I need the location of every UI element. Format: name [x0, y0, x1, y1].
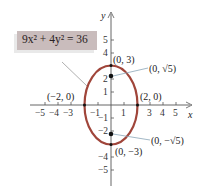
vertex-right-point: [136, 104, 139, 107]
equation-leader-line: [62, 62, 87, 86]
x-tick-label: 1: [121, 108, 126, 118]
vertex-bottom-point: [110, 143, 113, 146]
y-tick-label: −2: [98, 126, 108, 136]
point-label-right: (2, 0): [140, 91, 162, 103]
x-tick-label: −4: [49, 108, 59, 118]
y-tick-label: −4: [98, 152, 108, 162]
focus-top-point: [109, 74, 114, 79]
point-label-focus-bottom: (0, −√5): [151, 135, 184, 147]
x-tick-label: 4: [160, 108, 165, 118]
x-tick-label: 3: [147, 108, 152, 118]
y-axis-label: y: [100, 10, 106, 21]
y-tick-label: 1: [103, 87, 108, 97]
vertex-left-point: [83, 104, 86, 107]
y-tick-label: 4: [103, 48, 108, 58]
focus-top-leader: [113, 68, 148, 76]
x-tick-label: −3: [63, 108, 73, 118]
x-axis-label: x: [187, 109, 193, 120]
focus-bottom-point: [109, 132, 114, 137]
equation-label: 9x² + 4y² = 36: [22, 33, 88, 45]
x-tick-label: −5: [35, 108, 45, 118]
y-tick-label: −1: [98, 113, 108, 123]
y-tick-label: 2: [103, 74, 108, 84]
ellipse-chart: y x −5 −4 −3 −1 1 3 4 5 5 4 2 1 −1 −2 −4…: [0, 0, 207, 191]
focus-bottom-leader: [113, 134, 150, 140]
point-label-bottom: (0, −3): [115, 146, 142, 158]
x-tick-label: 5: [173, 108, 178, 118]
point-label-top: (0, 3): [113, 54, 135, 66]
y-tick-label: 5: [103, 35, 108, 45]
y-tick-label: −5: [98, 165, 108, 175]
point-label-focus-top: (0, √5): [149, 63, 176, 75]
point-label-left: (−2, 0): [47, 91, 74, 103]
